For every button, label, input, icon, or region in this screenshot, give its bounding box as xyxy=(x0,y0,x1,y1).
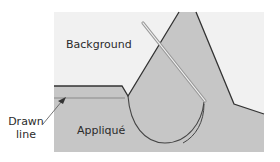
drawn-line-label: Drawn line xyxy=(8,115,44,141)
background-label: Background xyxy=(66,38,132,51)
drawn-line-label-2: line xyxy=(8,128,44,141)
applique-label: Appliqué xyxy=(77,124,125,137)
drawn-line-label-1: Drawn xyxy=(8,115,44,128)
